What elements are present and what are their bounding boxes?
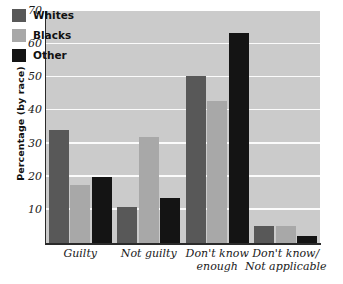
x-axis-label-3: Don't know/Not applicable <box>240 247 333 273</box>
chart-legend: WhitesBlacksOther <box>12 6 74 66</box>
bar-other-3 <box>297 236 317 243</box>
y-axis-tick-label: 40 <box>20 104 42 115</box>
x-axis-label-line: Don't know/ <box>240 247 333 260</box>
legend-item-blacks: Blacks <box>12 26 74 44</box>
bar-whites-2 <box>186 76 206 243</box>
bar-blacks-2 <box>207 101 227 244</box>
legend-label: Whites <box>33 9 74 21</box>
legend-label: Other <box>33 49 67 61</box>
gridline <box>46 76 320 78</box>
gridline <box>46 43 320 45</box>
legend-swatch-icon <box>12 49 26 62</box>
gridline <box>46 142 320 144</box>
bar-whites-1 <box>117 207 137 243</box>
y-axis-tick-label: 10 <box>20 204 42 215</box>
bar-chart: Percentage (by race) 10203040506070 Whit… <box>0 0 343 284</box>
bar-other-0 <box>92 177 112 243</box>
y-axis-tick-label: 30 <box>20 138 42 149</box>
y-axis-tick-label: 20 <box>20 171 42 182</box>
legend-item-other: Other <box>12 46 74 64</box>
gridline <box>46 109 320 111</box>
legend-label: Blacks <box>33 29 71 41</box>
bar-other-1 <box>160 198 180 243</box>
legend-item-whites: Whites <box>12 6 74 24</box>
gridline <box>46 175 320 177</box>
x-axis-line <box>45 243 321 245</box>
plot-area <box>46 11 320 243</box>
bar-other-2 <box>229 33 249 243</box>
x-axis-label-line: Not applicable <box>240 260 333 273</box>
bar-whites-0 <box>49 130 69 243</box>
legend-swatch-icon <box>12 9 26 22</box>
bar-blacks-0 <box>70 185 90 243</box>
x-axis-category-labels: GuiltyNot guiltyDon't knowenoughDon't kn… <box>46 247 320 283</box>
y-axis-tick-label: 50 <box>20 71 42 82</box>
bar-blacks-1 <box>139 137 159 243</box>
bar-whites-3 <box>254 226 274 243</box>
legend-swatch-icon <box>12 29 26 42</box>
bar-blacks-3 <box>276 226 296 243</box>
